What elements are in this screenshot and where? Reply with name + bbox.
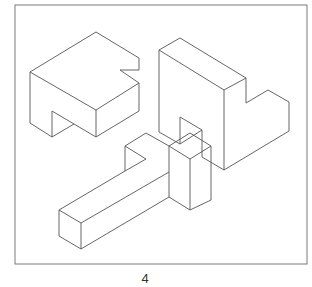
shape-block-with-notches	[30, 32, 139, 137]
figure-caption: 4	[0, 271, 290, 286]
isometric-figure	[0, 0, 312, 287]
shape-step-arch-block	[159, 38, 289, 170]
shape-t-bar-with-post	[59, 133, 211, 249]
